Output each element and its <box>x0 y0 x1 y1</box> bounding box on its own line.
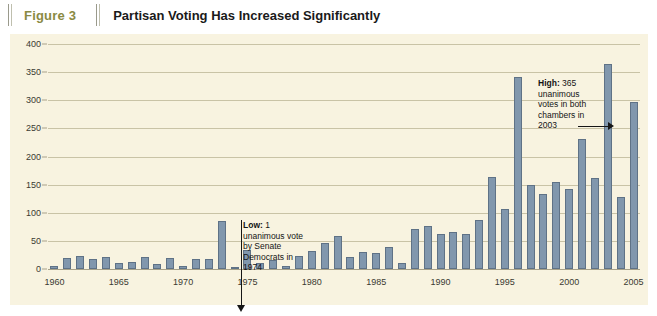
bar-1966 <box>128 262 136 269</box>
bar-1981 <box>321 243 329 269</box>
figure-root: Figure 3 Partisan Voting Has Increased S… <box>0 0 657 316</box>
low-annotation-label: Low: <box>243 220 263 230</box>
bar-1985 <box>372 253 380 269</box>
bar-1994 <box>488 177 496 269</box>
y-tick-label-50: 50 <box>31 236 41 246</box>
y-tick-label-200: 200 <box>26 152 41 162</box>
bar-1989 <box>424 226 432 269</box>
y-tick-mark-200 <box>42 156 47 157</box>
bar-1974 <box>231 267 239 269</box>
bar-1998 <box>539 194 547 269</box>
y-tick-label-300: 300 <box>26 95 41 105</box>
low-annotation-leader-line <box>241 220 242 308</box>
high-annotation-line-0: High: 365 <box>538 78 586 89</box>
high-annotation-label: High: <box>538 78 560 88</box>
bar-1997 <box>527 185 535 269</box>
high-annotation-line-4: 2003 <box>538 120 586 131</box>
bar-1991 <box>449 232 457 269</box>
bar-2004 <box>617 197 625 269</box>
chart-panel: 050100150200250300350400 196019651970197… <box>10 34 648 305</box>
bar-1999 <box>552 182 560 269</box>
x-tick-label-2005: 2005 <box>624 277 644 287</box>
low-annotation-line-1: unanimous vote <box>243 231 303 242</box>
bar-1965 <box>115 263 123 269</box>
y-tick-mark-0 <box>42 269 47 270</box>
figure-number-label: Figure 3 <box>14 8 88 23</box>
bar-1964 <box>102 257 110 269</box>
bar-1993 <box>475 220 483 270</box>
high-annotation-line-2: votes in both <box>538 99 586 110</box>
x-tick-label-1960: 1960 <box>44 277 64 287</box>
bar-1971 <box>192 259 200 269</box>
low-annotation-line-2: by Senate <box>243 241 303 252</box>
bar-1988 <box>411 229 419 270</box>
low-annotation-line-3: Democrats in <box>243 252 303 263</box>
y-tick-label-150: 150 <box>26 180 41 190</box>
bar-2003 <box>604 64 612 269</box>
bar-1990 <box>437 234 445 269</box>
y-tick-mark-300 <box>42 100 47 101</box>
bar-1983 <box>346 257 354 269</box>
y-tick-label-0: 0 <box>36 264 41 274</box>
y-tick-mark-150 <box>42 184 47 185</box>
bar-1960 <box>50 266 58 269</box>
high-annotation-text: High: 365unanimousvotes in bothchambers … <box>538 78 586 131</box>
low-annotation-arrowhead-icon <box>237 305 245 312</box>
bar-1973 <box>218 221 226 269</box>
x-tick-label-1970: 1970 <box>173 277 193 287</box>
high-annotation-arrowhead-icon <box>608 122 614 130</box>
low-annotation-line-0: Low: 1 <box>243 220 303 231</box>
x-tick-label-1990: 1990 <box>431 277 451 287</box>
bar-2002 <box>591 178 599 269</box>
y-tick-mark-250 <box>42 128 47 129</box>
x-axis-ticks: 1960196519701975198019851990199520002005 <box>48 277 640 291</box>
y-tick-label-400: 400 <box>26 39 41 49</box>
high-annotation-line-3: chambers in <box>538 110 586 121</box>
bar-1982 <box>334 236 342 269</box>
low-annotation-line-4: 1974 <box>243 262 303 273</box>
bar-1967 <box>141 257 149 269</box>
bar-2005 <box>630 102 638 269</box>
bar-1962 <box>76 256 84 270</box>
x-tick-label-1995: 1995 <box>495 277 515 287</box>
figure-header: Figure 3 Partisan Voting Has Increased S… <box>0 0 657 30</box>
bar-1970 <box>179 266 187 269</box>
y-tick-label-250: 250 <box>26 123 41 133</box>
bar-2000 <box>565 189 573 269</box>
bar-1961 <box>63 258 71 269</box>
bar-1963 <box>89 259 97 269</box>
x-tick-label-1965: 1965 <box>109 277 129 287</box>
bar-1968 <box>153 264 161 269</box>
y-tick-label-350: 350 <box>26 67 41 77</box>
bar-1972 <box>205 259 213 269</box>
x-tick-label-1985: 1985 <box>366 277 386 287</box>
y-tick-mark-400 <box>42 44 47 45</box>
bar-2001 <box>578 139 586 269</box>
gridline-0 <box>48 269 640 270</box>
bar-1996 <box>514 77 522 269</box>
y-tick-mark-50 <box>42 240 47 241</box>
bar-1980 <box>308 251 316 269</box>
figure-title: Partisan Voting Has Increased Significan… <box>102 8 380 23</box>
bar-1987 <box>398 263 406 269</box>
bar-1986 <box>385 247 393 269</box>
y-tick-mark-100 <box>42 212 47 213</box>
bar-1984 <box>359 252 367 269</box>
y-tick-label-100: 100 <box>26 208 41 218</box>
bar-1992 <box>462 234 470 269</box>
x-tick-label-1980: 1980 <box>302 277 322 287</box>
x-tick-label-2000: 2000 <box>559 277 579 287</box>
y-tick-mark-350 <box>42 72 47 73</box>
bar-1969 <box>166 258 174 269</box>
low-annotation-text: Low: 1unanimous voteby SenateDemocrats i… <box>243 220 303 273</box>
high-annotation-line-1: unanimous <box>538 89 586 100</box>
bar-1995 <box>501 209 509 269</box>
